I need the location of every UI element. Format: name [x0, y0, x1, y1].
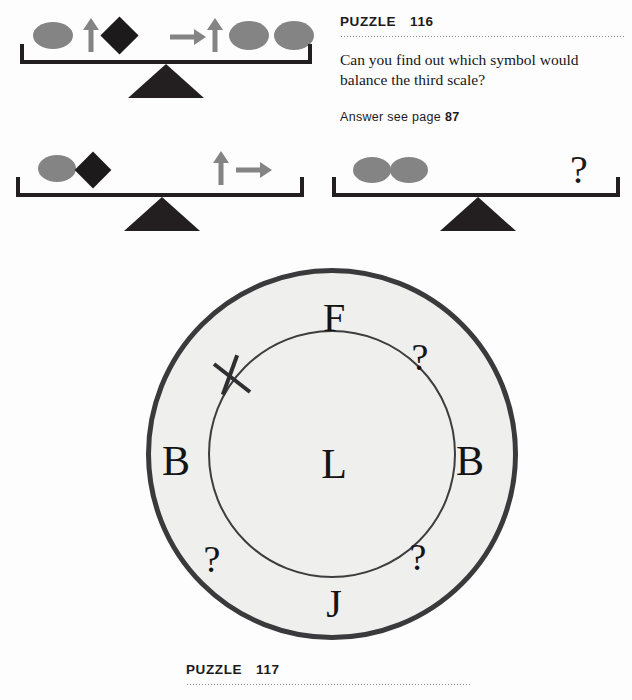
- footer-dotted-rule: [186, 682, 470, 685]
- scale2-right-endstop: [300, 177, 304, 197]
- ring-letter-left: B: [154, 440, 198, 482]
- scale2-right-arrow-right-icon: [236, 161, 272, 183]
- puzzle-117-number: 117: [256, 662, 280, 677]
- answer-page-number: 87: [445, 110, 460, 124]
- scale3-right-endstop: [616, 177, 620, 197]
- scale3-left-ellipse-2: [390, 157, 428, 183]
- answer-prefix: Answer see page: [340, 110, 441, 124]
- puzzle-117-label: PUZZLE: [186, 662, 242, 677]
- prompt-line-1: Can you find out which symbol would: [340, 50, 620, 70]
- ring-letter-top: F: [312, 298, 356, 338]
- scale2-left-diamond: [75, 152, 112, 189]
- tick-mark-icon: [206, 346, 276, 420]
- puzzle-116-heading: PUZZLE116: [340, 14, 434, 29]
- answer-reference: Answer see page 87: [340, 110, 459, 124]
- ring-letter-lower-left: ?: [192, 540, 232, 578]
- scale1-left-diamond: [100, 16, 138, 54]
- scale3-left-ellipse-1: [353, 157, 391, 183]
- scale1-right-ellipse-1: [229, 21, 269, 50]
- header-dotted-rule: [340, 34, 624, 37]
- scale2-right-arrow-up-icon: [212, 151, 230, 189]
- scale1-right-arrow-up-icon: [206, 18, 224, 56]
- ring-letter-right: B: [448, 440, 492, 482]
- circle-puzzle-diagram: F ? B ? J ? B L: [146, 268, 518, 640]
- puzzle-116-number: 116: [410, 14, 434, 29]
- scale1-left-ellipse: [33, 22, 73, 49]
- scale3-fulcrum: [440, 197, 516, 231]
- scale1-left-arrow-up-icon: [82, 18, 100, 56]
- puzzle-117-heading: PUZZLE117: [186, 662, 280, 677]
- prompt-line-2: balance the third scale?: [340, 70, 620, 90]
- puzzle-prompt: Can you find out which symbol would bala…: [340, 50, 620, 89]
- ring-letter-bottom: J: [312, 584, 356, 624]
- scale1-right-arrow-right-icon: [170, 28, 206, 50]
- scale1-right-endstop: [308, 44, 312, 64]
- scale3-question-mark: ?: [570, 150, 588, 190]
- scale1-fulcrum: [128, 64, 204, 98]
- ring-letter-upper-right: ?: [400, 338, 440, 376]
- ring-letter-lower-right: ?: [398, 538, 438, 576]
- scale2-left-ellipse: [38, 155, 76, 182]
- ring-letter-center: L: [310, 443, 358, 485]
- scale2-fulcrum: [124, 197, 200, 231]
- puzzle-116-label: PUZZLE: [340, 14, 396, 29]
